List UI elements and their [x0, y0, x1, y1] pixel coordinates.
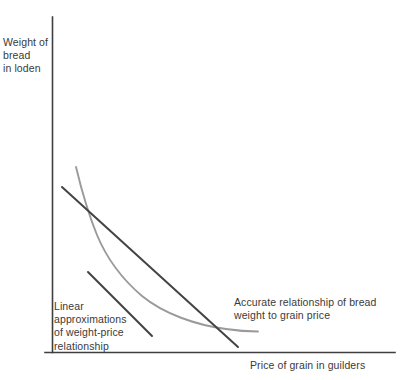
x-axis-label: Price of grain in guilders	[250, 359, 415, 372]
bread-weight-vs-grain-price-figure: Weight of bread in loden Price of grain …	[0, 0, 417, 380]
accurate-relationship-annotation: Accurate relationship of bread weight to…	[234, 296, 409, 322]
y-axis-label: Weight of bread in loden	[3, 36, 63, 76]
linear-approximations-annotation: Linear approximations of weight-price re…	[54, 300, 146, 353]
